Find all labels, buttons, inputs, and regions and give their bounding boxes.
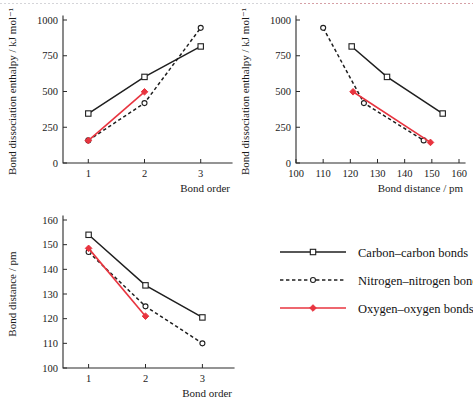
x-tick-label: 150 <box>424 168 440 179</box>
enthalpy-vs-order-svg: 02505007501000123Bond dissociation entha… <box>0 0 240 205</box>
x-tick-label: 100 <box>288 168 304 179</box>
y-tick-label: 100 <box>42 363 58 374</box>
y-tick-label: 1000 <box>270 15 291 26</box>
axis-frame <box>63 216 234 368</box>
x-tick-label: 120 <box>342 168 358 179</box>
x-tick-label: 160 <box>451 168 467 179</box>
legend-marker-oxygen-oxygen <box>310 305 317 312</box>
legend-marker-carbon-carbon <box>310 249 315 254</box>
x-tick-label: 130 <box>370 168 386 179</box>
data-point <box>200 315 205 320</box>
x-tick-label: 3 <box>198 168 203 179</box>
series-line-diamond-filled <box>88 92 144 141</box>
y-tick-label: 250 <box>42 122 58 133</box>
x-axis-title: Bond order <box>182 387 232 399</box>
y-tick-label: 150 <box>42 239 58 250</box>
x-tick-label: 2 <box>143 373 148 384</box>
x-tick-label: 140 <box>397 168 413 179</box>
chart-distance-vs-order: 100110120130140150160123Bond distance / … <box>0 198 250 418</box>
data-point <box>86 232 91 237</box>
legend-label-nitrogen-nitrogen: Nitrogen–nitrogen bonds <box>358 274 473 288</box>
x-tick-label: 3 <box>200 373 205 384</box>
x-tick-label: 1 <box>86 373 91 384</box>
data-point <box>143 283 148 288</box>
figure-root: 02505007501000123Bond dissociation entha… <box>0 0 473 418</box>
legend: Carbon–carbon bondsNitrogen–nitrogen bon… <box>250 230 473 330</box>
y-axis-title: Bond dissociation enthalpy / kJ mol⁻¹ <box>6 8 18 175</box>
data-point <box>198 44 203 49</box>
legend-marker-nitrogen-nitrogen <box>311 278 316 283</box>
data-point <box>361 101 366 106</box>
series-line-circle-open <box>88 28 200 141</box>
y-axis-title: Bond dissociation enthalpy / kJ mol⁻¹ <box>239 8 251 175</box>
y-tick-label: 160 <box>42 215 58 226</box>
y-axis-title: Bond distance / pm <box>6 251 18 337</box>
data-point <box>384 74 389 79</box>
data-point <box>142 101 147 106</box>
y-tick-label: 0 <box>53 158 58 169</box>
y-tick-label: 1000 <box>37 15 58 26</box>
y-tick-label: 110 <box>43 338 58 349</box>
series-line-diamond-filled <box>353 92 430 143</box>
enthalpy-vs-distance-svg: 02505007501000100110120130140150160Bond … <box>233 0 473 205</box>
data-point <box>143 304 148 309</box>
data-point <box>142 74 147 79</box>
data-point <box>198 25 203 30</box>
chart-enthalpy-vs-distance: 02505007501000100110120130140150160Bond … <box>233 0 473 205</box>
y-tick-label: 0 <box>286 158 291 169</box>
data-point <box>440 111 445 116</box>
y-tick-label: 500 <box>275 86 291 97</box>
distance-vs-order-svg: 100110120130140150160123Bond distance / … <box>0 198 250 418</box>
y-tick-label: 140 <box>42 264 58 275</box>
y-tick-label: 750 <box>42 50 58 61</box>
data-point <box>200 341 205 346</box>
data-point <box>321 25 326 30</box>
x-axis-title: Bond order <box>180 182 230 194</box>
legend-label-oxygen-oxygen: Oxygen–oxygen bonds <box>358 302 473 316</box>
y-tick-label: 120 <box>42 313 58 324</box>
legend-svg: Carbon–carbon bondsNitrogen–nitrogen bon… <box>250 230 473 330</box>
series-line-circle-open <box>89 252 203 343</box>
y-tick-label: 250 <box>275 122 291 133</box>
x-tick-label: 2 <box>142 168 147 179</box>
series-line-circle-open <box>323 28 424 141</box>
x-axis-title: Bond distance / pm <box>378 182 464 194</box>
series-line-diamond-filled <box>89 248 146 316</box>
x-tick-label: 1 <box>86 168 91 179</box>
chart-enthalpy-vs-order: 02505007501000123Bond dissociation entha… <box>0 0 240 205</box>
data-point <box>86 111 91 116</box>
data-point <box>349 44 354 49</box>
legend-label-carbon-carbon: Carbon–carbon bonds <box>358 246 468 260</box>
x-tick-label: 110 <box>315 168 330 179</box>
y-tick-label: 500 <box>42 86 58 97</box>
y-tick-label: 750 <box>275 50 291 61</box>
axis-frame <box>296 16 465 163</box>
y-tick-label: 130 <box>42 289 58 300</box>
